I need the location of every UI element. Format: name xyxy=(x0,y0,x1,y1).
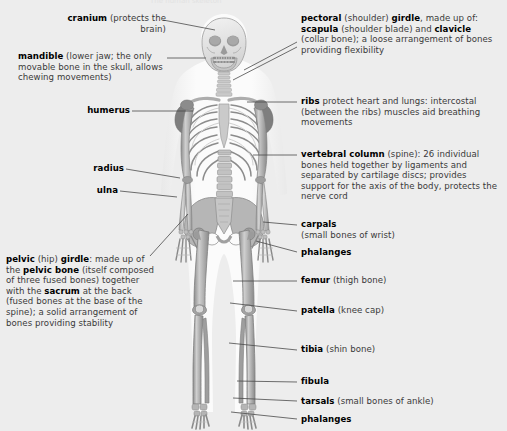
label-patella: patella (knee cap) xyxy=(301,305,501,316)
label-humerus-term: humerus xyxy=(87,105,130,115)
label-ribs-term: ribs xyxy=(301,96,320,106)
label-vertebral-term: vertebral column xyxy=(301,149,385,159)
label-pectoral-term2: girdle xyxy=(392,13,421,23)
label-tarsals: tarsals (small bones of ankle) xyxy=(301,396,501,407)
label-pectoral-girdle: pectoral (shoulder) girdle, made up of: … xyxy=(301,13,501,55)
label-patella-term: patella xyxy=(301,305,335,315)
label-ribs-rest: protect heart and lungs: intercostal (be… xyxy=(301,96,480,127)
label-vertebral-column: vertebral column (spine): 26 individual … xyxy=(301,149,501,202)
label-clavicle-term: clavicle xyxy=(434,24,471,34)
label-pelvic-term4: sacrum xyxy=(44,286,80,296)
label-fibula: fibula xyxy=(301,376,501,387)
label-cranium: cranium (protects the brain) xyxy=(44,13,166,34)
label-femur-rest: (thigh bone) xyxy=(330,275,386,285)
label-phalanges-foot: phalanges xyxy=(301,414,501,425)
label-pelvic-term2: girdle xyxy=(61,254,90,264)
label-carpals-rest: (small bones of wrist) xyxy=(301,230,395,240)
label-tibia-rest: (shin bone) xyxy=(323,344,375,354)
label-cranium-term: cranium xyxy=(67,13,107,23)
label-mandible: mandible (lower jaw; the only movable bo… xyxy=(18,51,166,83)
label-pelvic-term3: pelvic bone xyxy=(23,265,79,275)
label-pectoral-rest1: (shoulder) xyxy=(341,13,391,23)
label-femur-term: femur xyxy=(301,275,330,285)
skull-bone xyxy=(202,18,246,72)
label-carpals: carpals (small bones of wrist) xyxy=(301,219,501,240)
label-ulna-term: ulna xyxy=(97,185,118,195)
label-mandible-term: mandible xyxy=(18,51,63,61)
label-pectoral-term1: pectoral xyxy=(301,13,341,23)
label-tibia: tibia (shin bone) xyxy=(301,344,501,355)
label-tarsals-rest: (small bones of ankle) xyxy=(334,396,433,406)
label-pelvic-girdle: pelvic (hip) girdle: made up of the pelv… xyxy=(6,254,156,328)
label-radius-term: radius xyxy=(93,163,124,173)
label-clavicle-rest: (collar bone); a loose arrangement of bo… xyxy=(301,34,492,55)
label-phalanges-foot-term: phalanges xyxy=(301,414,351,424)
label-tarsals-term: tarsals xyxy=(301,396,334,406)
diagram-canvas: The human skeleton xyxy=(0,0,507,431)
label-pelvic-rest1: (hip) xyxy=(35,254,61,264)
label-humerus: humerus xyxy=(78,105,130,116)
label-tibia-term: tibia xyxy=(301,344,323,354)
label-ribs: ribs protect heart and lungs: intercosta… xyxy=(301,96,501,128)
label-carpals-term: carpals xyxy=(301,219,337,229)
label-ulna: ulna xyxy=(66,185,118,196)
label-femur: femur (thigh bone) xyxy=(301,275,501,286)
label-radius: radius xyxy=(72,163,124,174)
label-phalanges-hand: phalanges xyxy=(301,247,501,258)
label-fibula-term: fibula xyxy=(301,376,329,386)
label-pelvic-term1: pelvic xyxy=(6,254,35,264)
tarsals-bone xyxy=(192,404,256,416)
label-scapula-rest: (shoulder blade) and xyxy=(338,24,434,34)
label-patella-rest: (knee cap) xyxy=(335,305,384,315)
label-pectoral-rest2: , made up of: xyxy=(420,13,478,23)
label-cranium-rest: (protects the brain) xyxy=(107,13,166,34)
cropped-header-text: The human skeleton xyxy=(150,0,480,3)
label-scapula-term: scapula xyxy=(301,24,338,34)
label-phalanges-hand-term: phalanges xyxy=(301,247,351,257)
